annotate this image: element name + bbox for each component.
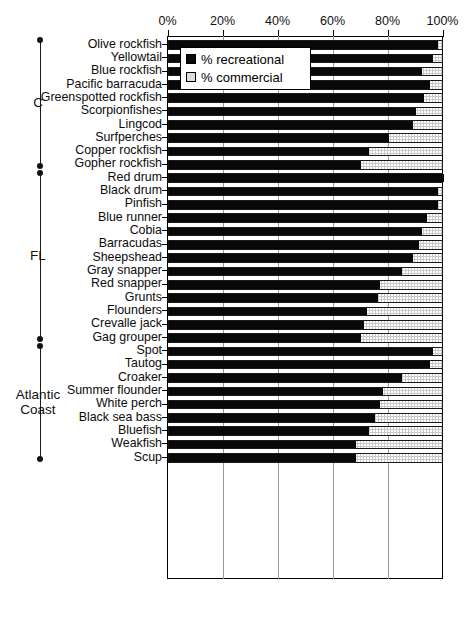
category-label: Surfperches (95, 131, 162, 144)
bar-segment-recreational (169, 414, 375, 422)
stacked-bar-chart: 0%20%40%60%80%100% Olive rockfishYellowt… (0, 0, 469, 618)
y-axis-tickmark (162, 297, 167, 298)
category-label: Yellowtail (111, 51, 162, 64)
bar-segment-recreational (169, 201, 439, 209)
category-label: Blue rockfish (91, 64, 162, 77)
category-label: Croaker (118, 371, 162, 384)
stacked-bar (168, 147, 443, 157)
y-axis-tickmark (162, 364, 167, 365)
group-label-line2: Coast (0, 402, 76, 417)
x-axis-tick-labels: 0%20%40%60%80%100% (0, 14, 469, 30)
x-axis-tick-label: 40% (265, 14, 290, 28)
y-axis-tickmark (162, 230, 167, 231)
y-axis-tickmark (162, 270, 167, 271)
bar-segment-recreational (169, 281, 381, 289)
y-axis-tickmark (162, 417, 167, 418)
bar-segment-recreational (169, 401, 381, 409)
bar-row: Blue runner (0, 212, 469, 225)
stacked-bar (168, 133, 443, 143)
bar-row: Flounders (0, 305, 469, 318)
bar-row: Gray snapper (0, 265, 469, 278)
stacked-bar (168, 267, 443, 277)
bar-segment-recreational (169, 361, 430, 369)
y-axis-tickmark (162, 124, 167, 125)
y-axis-tickmark (162, 164, 167, 165)
category-label: Black drum (100, 184, 162, 197)
category-label: Gopher rockfish (75, 157, 162, 170)
y-axis-tickmark (162, 84, 167, 85)
y-axis-tickmark (162, 457, 167, 458)
category-label: Olive rockfish (88, 38, 162, 51)
category-label: Sheepshead (92, 251, 162, 264)
stacked-bar (168, 413, 443, 423)
bar-segment-recreational (169, 374, 403, 382)
bar-row: Pinfish (0, 198, 469, 211)
bar-row: Red snapper (0, 278, 469, 291)
bar-row: Tautog (0, 358, 469, 371)
stacked-bar (168, 440, 443, 450)
stacked-bar (168, 293, 443, 303)
stacked-bar (168, 160, 443, 170)
bar-segment-recreational (169, 108, 417, 116)
category-label: Lingcod (119, 118, 162, 131)
stacked-bar (168, 173, 443, 183)
chart-legend: % recreational % commercial (180, 47, 311, 90)
category-label: Tautog (125, 357, 162, 370)
category-label: Copper rockfish (75, 144, 162, 157)
y-axis-tickmark (162, 150, 167, 151)
category-label: Gag grouper (92, 331, 162, 344)
bar-segment-recreational (169, 174, 444, 182)
legend-swatch-commercial-icon (186, 72, 196, 82)
y-axis-tickmark (162, 310, 167, 311)
stacked-bar (168, 120, 443, 130)
bar-segment-recreational (169, 134, 389, 142)
stacked-bar (168, 307, 443, 317)
category-label: Pacific barracuda (66, 78, 162, 91)
bar-row: Weakfish (0, 438, 469, 451)
stacked-bar (168, 453, 443, 463)
y-axis-tickmark (162, 324, 167, 325)
bar-row: Spot (0, 345, 469, 358)
y-axis-tickmark (162, 244, 167, 245)
stacked-bar (168, 426, 443, 436)
group-label: C (0, 95, 76, 110)
y-axis-tickmark (162, 337, 167, 338)
category-label: Gray snapper (87, 264, 162, 277)
category-label: Grunts (125, 291, 162, 304)
y-axis-tickmark (162, 404, 167, 405)
x-axis-tick-label: 80% (375, 14, 400, 28)
bar-row: Lingcod (0, 119, 469, 132)
bar-row: Copper rockfish (0, 145, 469, 158)
stacked-bar (168, 200, 443, 210)
y-axis-tickmark (162, 177, 167, 178)
y-axis-tickmark (162, 137, 167, 138)
group-label: FL (0, 248, 76, 263)
bar-row: Gopher rockfish (0, 158, 469, 171)
bar-segment-recreational (169, 348, 433, 356)
category-label: Flounders (107, 304, 162, 317)
y-axis-tickmark (162, 110, 167, 111)
legend-item-commercial: % commercial (186, 68, 305, 86)
y-axis-tickmark (162, 97, 167, 98)
y-axis-tickmark (162, 44, 167, 45)
legend-label-commercial: % commercial (201, 70, 283, 85)
group-label-line1: Atlantic (0, 387, 76, 402)
category-label: Spot (137, 344, 163, 357)
bar-row: Gag grouper (0, 332, 469, 345)
bar-segment-recreational (169, 188, 439, 196)
bar-row: Red drum (0, 172, 469, 185)
bar-segment-recreational (169, 121, 414, 129)
stacked-bar (168, 107, 443, 117)
bar-row: Bluefish (0, 425, 469, 438)
bar-segment-recreational (169, 427, 370, 435)
group-label: AtlanticCoast (0, 387, 76, 417)
x-axis-tick-label: 0% (158, 14, 176, 28)
bar-segment-recreational (169, 228, 422, 236)
category-label: White perch (96, 397, 162, 410)
stacked-bar (168, 320, 443, 330)
stacked-bar (168, 400, 443, 410)
bar-segment-recreational (169, 241, 419, 249)
bar-row: Grunts (0, 292, 469, 305)
category-label: Red drum (108, 171, 162, 184)
category-label: Weakfish (111, 437, 162, 450)
